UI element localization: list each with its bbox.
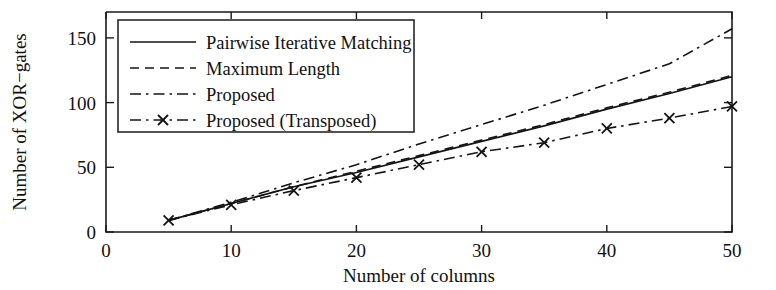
x-tick-label: 30 — [472, 240, 491, 261]
legend: Pairwise Iterative MatchingMaximum Lengt… — [118, 20, 414, 132]
x-axis-title: Number of columns — [343, 265, 495, 286]
legend-label-0: Pairwise Iterative Matching — [206, 33, 412, 53]
data-point-marker — [664, 113, 674, 123]
legend-label-3: Proposed (Transposed) — [206, 111, 376, 132]
x-tick-label: 20 — [347, 240, 366, 261]
xor-gates-line-chart: 01020304050 050100150 Pairwise Iterative… — [0, 0, 776, 290]
x-tick-label: 10 — [222, 240, 241, 261]
y-tick-label: 0 — [87, 222, 97, 243]
y-axis-title: Number of XOR−gates — [9, 33, 30, 210]
y-tick-label: 100 — [68, 93, 97, 114]
legend-label-2: Proposed — [206, 85, 276, 105]
y-tick-label: 50 — [77, 157, 96, 178]
x-tick-label: 50 — [723, 240, 742, 261]
data-point-marker — [164, 215, 174, 225]
figure-container: 01020304050 050100150 Pairwise Iterative… — [0, 0, 776, 290]
y-tick-label: 150 — [68, 28, 97, 49]
legend-label-1: Maximum Length — [206, 59, 340, 79]
x-tick-label: 40 — [597, 240, 616, 261]
x-tick-label: 0 — [101, 240, 111, 261]
